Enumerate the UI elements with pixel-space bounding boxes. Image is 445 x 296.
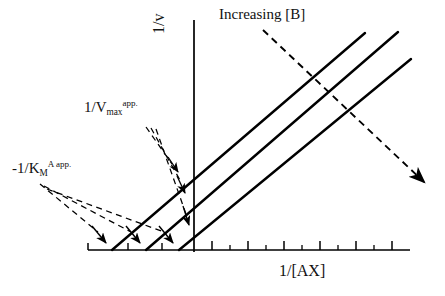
axis-group <box>88 20 410 252</box>
km-label-prefix: -1/K <box>12 160 40 176</box>
vmax-label-subscript: max <box>107 107 123 117</box>
data-line-3 <box>179 59 411 250</box>
lineweaver-burk-figure: Increasing [B] 1/v 1/[AX] 1/Vmaxapp. -1/… <box>0 0 445 296</box>
km-label-subscript: M <box>40 168 48 178</box>
km-label-superscript: A app. <box>48 159 72 169</box>
data-lines-group <box>112 32 411 250</box>
plot-canvas <box>0 0 445 296</box>
vmax-leader-lines <box>146 127 186 214</box>
km-a-app-label: -1/KMA app. <box>12 160 71 177</box>
km-leader-3 <box>47 189 164 232</box>
km-leader-1 <box>40 184 98 232</box>
x-axis-label: 1/[AX] <box>279 262 325 280</box>
y-axis-label: 1/v <box>150 14 168 34</box>
increasing-b-label: Increasing [B] <box>219 6 305 23</box>
data-line-1 <box>112 33 365 250</box>
data-line-2 <box>146 32 398 250</box>
km-leader-arrowheads <box>92 226 173 243</box>
vmax-app-label: 1/Vmaxapp. <box>84 99 138 116</box>
vmax-label-prefix: 1/V <box>84 99 107 115</box>
vmax-leader-3 <box>156 129 186 214</box>
x-intercept-region-ticks <box>128 243 162 250</box>
vmax-label-superscript: app. <box>123 98 138 108</box>
x-axis-major-ticks <box>88 241 392 250</box>
km-leader-lines <box>40 184 164 232</box>
